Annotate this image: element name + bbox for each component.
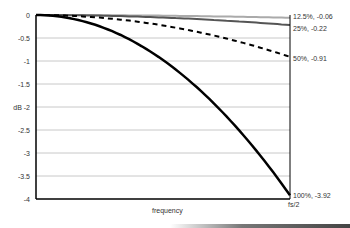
y-tick-label: -3.5 <box>18 173 30 180</box>
y-tick-label: -3 <box>24 150 30 157</box>
curve-100pct <box>36 15 290 195</box>
y-tick-label: 0 <box>26 12 30 19</box>
y-tick-label: dB -2 <box>13 104 30 111</box>
end-label: 12.5%, -0.06 <box>293 13 333 20</box>
x-axis-label: frequency <box>152 207 183 215</box>
curve-50pct <box>36 15 290 57</box>
y-tick-label: -4 <box>24 196 30 203</box>
y-tick-label: -1 <box>24 58 30 65</box>
y-axis-ticks: 0-0.5-1-1.5dB -2-2.5-3-3.5-4 <box>13 12 30 203</box>
end-label: 25%, -0.22 <box>293 25 327 32</box>
curves <box>36 15 290 195</box>
end-labels: 12.5%, -0.0625%, -0.2250%, -0.91100%, -3… <box>293 13 333 199</box>
end-label: 50%, -0.91 <box>293 55 327 62</box>
bottom-divider <box>170 224 350 228</box>
y-tick-label: -1.5 <box>18 81 30 88</box>
end-label: 100%, -3.92 <box>293 192 331 199</box>
x-tick-fs2: fs/2 <box>288 201 299 208</box>
y-tick-label: -0.5 <box>18 35 30 42</box>
y-tick-label: -2.5 <box>18 127 30 134</box>
frequency-response-chart: 0-0.5-1-1.5dB -2-2.5-3-3.5-4 12.5%, -0.0… <box>0 0 350 228</box>
